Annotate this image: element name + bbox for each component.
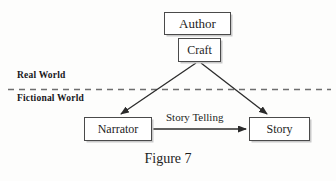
node-craft-label: Craft — [187, 44, 212, 56]
node-story-label: Story — [266, 123, 292, 135]
node-author: Author — [164, 12, 231, 35]
node-narrator-label: Narrator — [98, 123, 139, 135]
edge-label-story-telling: Story Telling — [166, 112, 223, 123]
node-author-label: Author — [179, 17, 216, 30]
real-world-label: Real World — [17, 71, 66, 81]
edge-craft-to-story — [201, 63, 267, 114]
node-story: Story — [249, 117, 310, 141]
figure-caption: Figure 7 — [0, 152, 336, 166]
edge-craft-to-narrator — [121, 63, 196, 114]
fictional-world-label: Fictional World — [17, 94, 84, 104]
node-narrator: Narrator — [84, 117, 152, 141]
node-craft: Craft — [178, 38, 221, 62]
figure-diagram: Author Craft Narrator Story Real World F… — [0, 0, 336, 181]
